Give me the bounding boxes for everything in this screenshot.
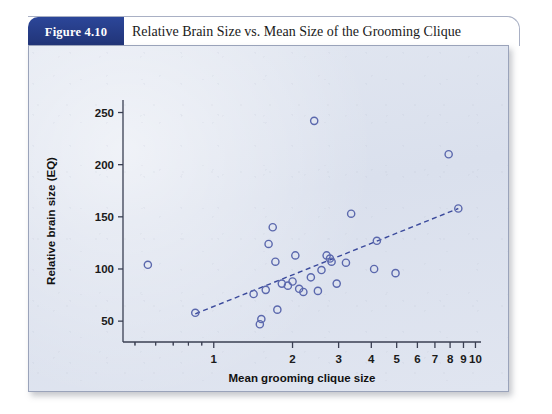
data-point	[342, 259, 349, 266]
figure-number-badge: Figure 4.10	[28, 17, 124, 47]
data-point	[274, 306, 281, 313]
data-point	[262, 286, 269, 293]
data-point	[333, 280, 340, 287]
x-tick-label: 10	[469, 353, 482, 365]
data-point	[292, 252, 299, 259]
data-point	[348, 210, 355, 217]
x-axis-ticks: 12345678910	[211, 342, 482, 365]
x-tick-label: 9	[460, 353, 466, 365]
x-tick-label: 6	[414, 353, 420, 365]
y-tick-label: 150	[95, 211, 114, 223]
x-tick-label: 4	[368, 353, 375, 365]
data-point	[311, 117, 318, 124]
y-tick-label: 100	[95, 263, 114, 275]
y-axis-ticks: 50100150200250	[95, 107, 123, 328]
data-point	[445, 151, 452, 158]
figure-card: Figure 4.10 Relative Brain Size vs. Mean…	[28, 16, 520, 392]
data-point	[269, 224, 276, 231]
y-axis-title: Relative brain size (EQ)	[45, 157, 57, 285]
data-point	[318, 266, 325, 273]
data-point	[272, 258, 279, 265]
x-tick-label: 5	[393, 353, 400, 365]
x-tick-label: 7	[432, 353, 438, 365]
figure-header: Figure 4.10 Relative Brain Size vs. Mean…	[28, 16, 520, 46]
x-tick-label: 2	[289, 353, 295, 365]
data-point	[250, 290, 257, 297]
x-axis-title: Mean grooming clique size	[229, 372, 376, 384]
y-tick-label: 50	[101, 315, 114, 327]
x-tick-label: 8	[447, 353, 454, 365]
y-tick-label: 200	[95, 159, 114, 171]
plot-panel: 50100150200250 12345678910 Relative brai…	[28, 45, 509, 392]
x-tick-label: 1	[211, 353, 218, 365]
data-point	[265, 240, 272, 247]
data-point	[392, 270, 399, 277]
x-tick-label: 3	[335, 353, 341, 365]
data-point	[307, 274, 314, 281]
data-points	[144, 117, 462, 328]
scatter-plot: 50100150200250 12345678910 Relative brai…	[29, 46, 509, 392]
data-point	[314, 287, 321, 294]
data-point	[371, 265, 378, 272]
data-point	[289, 278, 296, 285]
y-tick-label: 250	[95, 107, 114, 119]
figure-caption: Relative Brain Size vs. Mean Size of the…	[132, 17, 461, 47]
data-point	[144, 261, 151, 268]
